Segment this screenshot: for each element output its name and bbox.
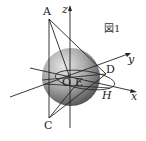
point-label-H: H [101, 89, 112, 102]
point-label-D: D [106, 63, 115, 76]
diagram-canvas: A z 図1 y D O E H x C [0, 0, 146, 141]
axis-label-z: z [61, 3, 68, 16]
figure-caption: 図1 [104, 23, 120, 34]
axis-label-y: y [127, 53, 135, 66]
point-label-C: C [44, 119, 52, 132]
z-axis-arrow-icon [68, 5, 72, 11]
point-label-E: E [75, 76, 83, 89]
point-label-A: A [42, 5, 52, 18]
point-label-O: O [62, 76, 71, 89]
axis-label-x: x [131, 90, 138, 103]
